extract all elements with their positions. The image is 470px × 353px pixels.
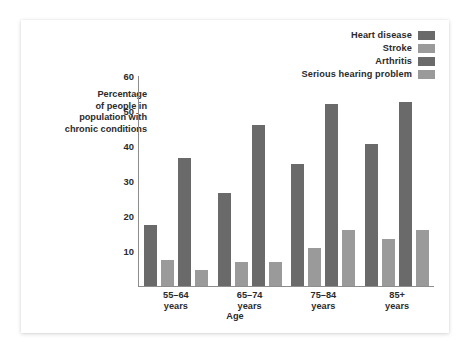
x-axis-title: Age (21, 311, 449, 321)
y-tick-label: 10 (124, 246, 134, 257)
legend-item[interactable]: Arthritis (375, 56, 435, 66)
legend-swatch-icon (418, 44, 435, 53)
y-tick-label: 40 (124, 141, 134, 152)
x-category-label-line: 85+ (360, 290, 434, 301)
bar[interactable] (399, 102, 412, 286)
x-category-label: 65–74years (213, 290, 287, 313)
bar[interactable] (235, 262, 248, 287)
bar[interactable] (416, 230, 429, 286)
x-category-label-line: 55–64 (139, 290, 213, 301)
chart-card: Heart diseaseStrokeArthritisSerious hear… (21, 20, 449, 333)
bar[interactable] (178, 158, 191, 286)
bar[interactable] (218, 193, 231, 286)
legend-label: Heart disease (351, 30, 412, 40)
y-tick-label: 20 (124, 211, 134, 222)
bar-group (213, 76, 287, 286)
bar[interactable] (291, 164, 304, 287)
bar[interactable] (342, 230, 355, 286)
bar[interactable] (161, 260, 174, 286)
x-category-label: 75–84years (287, 290, 361, 313)
legend-label: Stroke (383, 43, 412, 53)
y-axis-title-line: chronic conditions (39, 124, 147, 136)
x-category-label-line: 75–84 (287, 290, 361, 301)
y-tick-label: 30 (124, 176, 134, 187)
y-tick-label: 50 (124, 106, 134, 117)
bars-layer (139, 76, 434, 286)
x-category-label: 85+years (360, 290, 434, 313)
bar-group (139, 76, 213, 286)
x-axis-category-labels: 55–64years65–74years75–84years85+years (139, 290, 434, 313)
bar-group (287, 76, 361, 286)
y-tick-label: 60 (124, 71, 134, 82)
y-axis-title-line: Percentage (39, 89, 147, 101)
x-category-label-line: 65–74 (213, 290, 287, 301)
bar[interactable] (382, 239, 395, 286)
bar[interactable] (144, 225, 157, 286)
legend-label: Arthritis (375, 56, 412, 66)
bar[interactable] (195, 270, 208, 286)
bar[interactable] (325, 104, 338, 286)
plot-area: 102030405060 (138, 76, 434, 287)
bar-group (360, 76, 434, 286)
legend-swatch-icon (418, 57, 435, 66)
legend-item[interactable]: Heart disease (351, 30, 435, 40)
bar[interactable] (308, 248, 321, 287)
legend-item[interactable]: Stroke (383, 43, 435, 53)
chart-legend: Heart diseaseStrokeArthritisSerious hear… (301, 30, 435, 79)
x-axis-line (138, 286, 434, 287)
legend-swatch-icon (418, 31, 435, 40)
x-category-label: 55–64years (139, 290, 213, 313)
bar[interactable] (365, 144, 378, 286)
bar[interactable] (269, 262, 282, 287)
bar[interactable] (252, 125, 265, 286)
